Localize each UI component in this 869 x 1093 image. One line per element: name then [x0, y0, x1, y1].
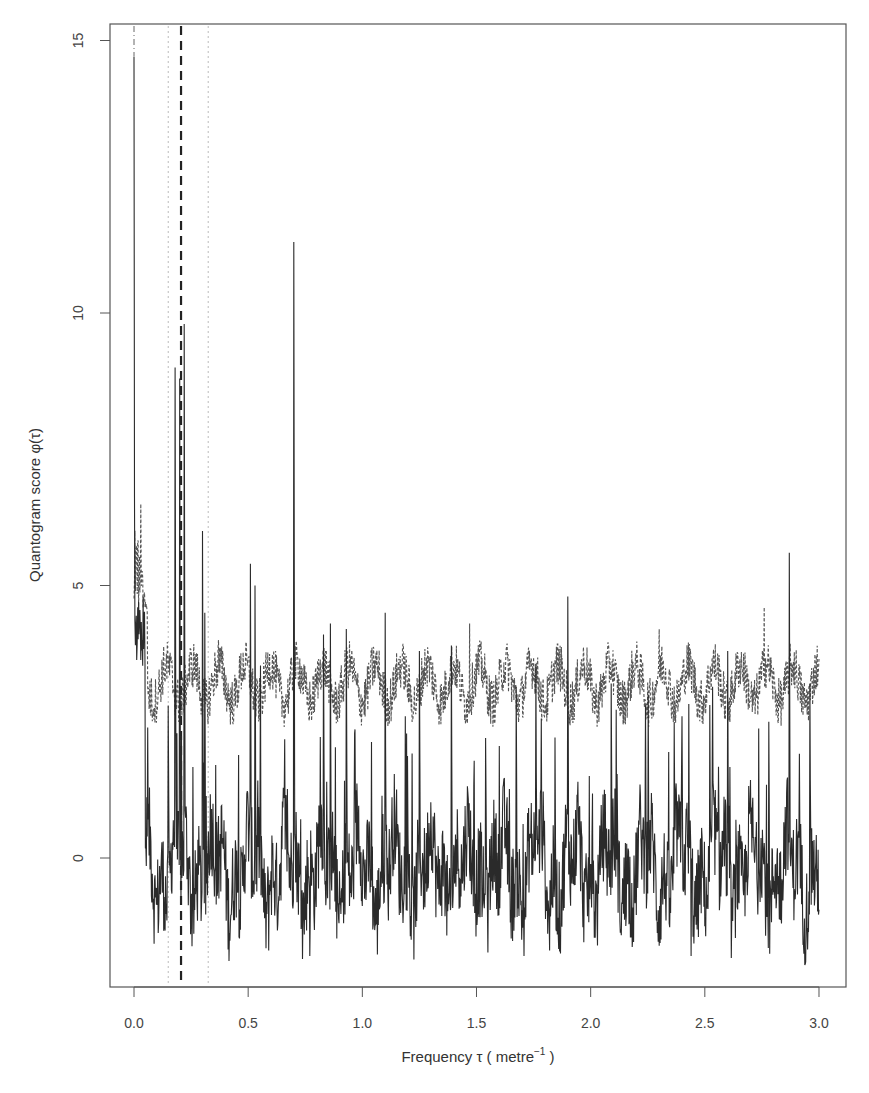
y-axis: 051015: [70, 33, 110, 862]
x-tick-label: 2.0: [581, 1015, 601, 1031]
y-tick-label: 15: [70, 33, 86, 49]
envelope-line: [134, 504, 819, 727]
quantogram-chart: 0.00.51.01.52.02.53.0 051015 Frequency τ…: [0, 0, 869, 1093]
x-tick-label: 0.5: [238, 1015, 258, 1031]
y-tick-label: 0: [70, 854, 86, 862]
y-tick-label: 10: [70, 305, 86, 321]
y-axis-title: Quantogram score φ(τ): [26, 428, 43, 582]
x-tick-label: 2.5: [695, 1015, 715, 1031]
x-axis-title: Frequency τ ( metre−1 ): [401, 1046, 554, 1065]
x-tick-label: 0.0: [124, 1015, 144, 1031]
envelope-series: [134, 504, 819, 727]
x-axis: 0.00.51.01.52.02.53.0: [124, 987, 829, 1031]
y-tick-label: 5: [70, 581, 86, 589]
quantogram-series: [134, 57, 819, 965]
x-tick-label: 1.5: [467, 1015, 487, 1031]
x-tick-label: 1.0: [353, 1015, 373, 1031]
quantogram-line: [134, 57, 819, 965]
x-tick-label: 3.0: [809, 1015, 829, 1031]
